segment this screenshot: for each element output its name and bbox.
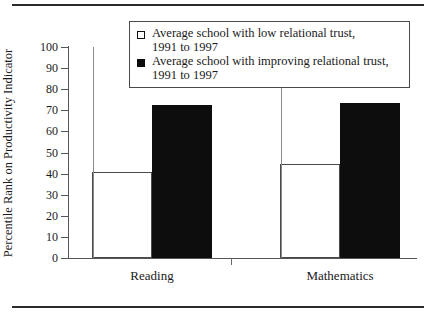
legend-entry-improving-trust-text: Average school with improving relational…	[152, 55, 389, 82]
y-tick-label: 10	[46, 231, 58, 243]
legend-low-trust-line2: 1991 to 1997	[152, 41, 355, 55]
bar-mathematics-improving-trust	[340, 103, 400, 258]
legend-entry-improving-trust: Average school with improving relational…	[137, 55, 401, 82]
filled-square-swatch-icon	[137, 59, 145, 67]
category-separator-left	[93, 47, 94, 258]
legend-improving-trust-line2: 1991 to 1997	[152, 69, 389, 83]
bar-reading-low-trust	[92, 172, 152, 259]
y-tick-label: 80	[46, 83, 58, 95]
x-axis-category-tick	[231, 258, 232, 265]
y-tick-label: 0	[52, 252, 58, 264]
legend-entry-low-trust-text: Average school with low relational trust…	[152, 27, 355, 54]
y-tick-mark	[61, 216, 68, 217]
y-tick-mark	[61, 237, 68, 238]
y-tick-mark	[61, 153, 68, 154]
y-tick-mark	[61, 258, 68, 259]
y-tick-label: 20	[46, 210, 58, 222]
y-tick-mark	[61, 68, 68, 69]
chart-legend: Average school with low relational trust…	[129, 21, 410, 88]
bar-reading-improving-trust	[152, 105, 212, 258]
legend-improving-trust-line1: Average school with improving relational…	[152, 54, 389, 68]
y-tick-mark	[61, 195, 68, 196]
y-axis-title: Percentile Rank on Productivity Indicato…	[1, 3, 16, 303]
y-tick-label: 100	[40, 41, 58, 53]
y-tick-label: 40	[46, 168, 58, 180]
y-tick-mark	[61, 174, 68, 175]
y-tick-label: 50	[46, 147, 58, 159]
y-tick-mark	[61, 47, 68, 48]
y-tick-label: 30	[46, 189, 58, 201]
x-axis-label-reading: Reading	[130, 268, 173, 284]
top-rule	[12, 4, 424, 6]
y-tick-mark	[61, 89, 68, 90]
y-axis-title-wrapper: Percentile Rank on Productivity Indicato…	[18, 47, 19, 258]
y-tick-label: 90	[46, 62, 58, 74]
legend-low-trust-line1: Average school with low relational trust…	[152, 26, 355, 40]
legend-entry-low-trust: Average school with low relational trust…	[137, 27, 401, 54]
x-axis-label-mathematics: Mathematics	[306, 268, 373, 284]
chart-figure: Percentile Rank on Productivity Indicato…	[0, 0, 436, 315]
y-tick-mark	[61, 131, 68, 132]
y-tick-label: 60	[46, 125, 58, 137]
x-axis-line	[68, 258, 417, 259]
bottom-rule	[12, 306, 424, 308]
bar-mathematics-low-trust	[280, 164, 340, 258]
open-square-swatch-icon	[137, 31, 145, 39]
y-tick-mark	[61, 110, 68, 111]
y-tick-label: 70	[46, 104, 58, 116]
